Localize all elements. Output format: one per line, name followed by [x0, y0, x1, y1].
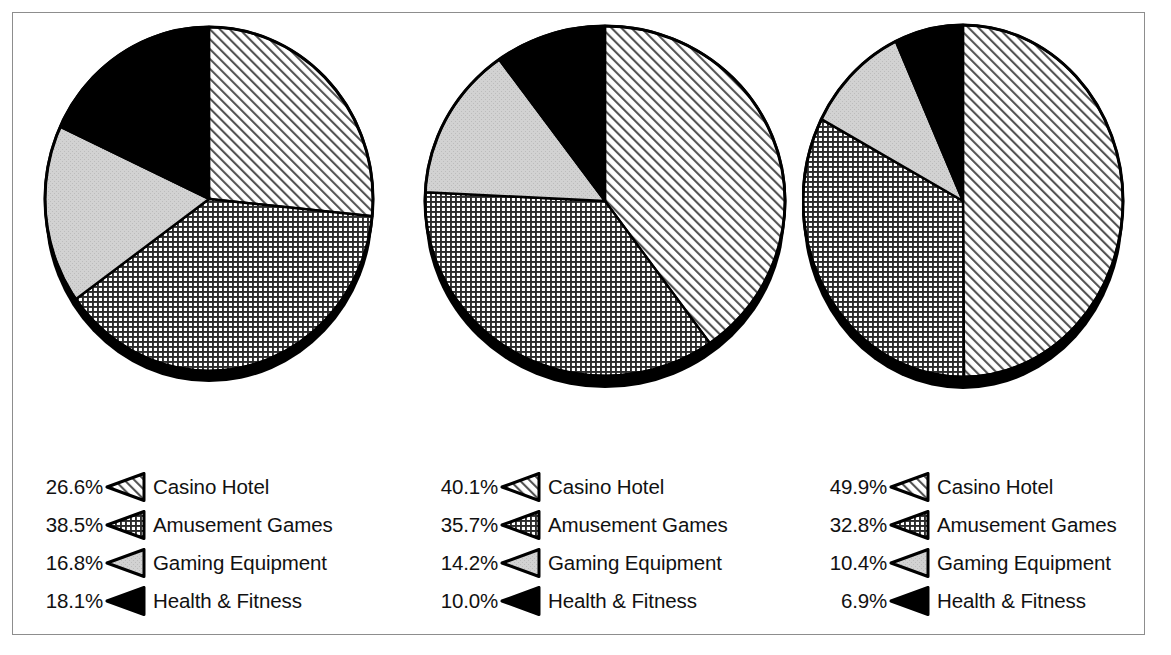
legend-marker-solid-black-icon	[105, 586, 147, 616]
legend-percent: 10.4%	[809, 551, 887, 575]
pie-panel-1: 26.6% Casino Hotel 38.5%	[13, 13, 408, 634]
legend-label: Amusement Games	[548, 513, 728, 537]
legend-marker-cross-hatch-icon	[500, 510, 542, 540]
legend-marker-solid-black-icon	[500, 586, 542, 616]
legend-1: 26.6% Casino Hotel 38.5%	[25, 468, 333, 620]
pie-panel-3: 49.9% Casino Hotel 32.8%	[788, 13, 1146, 634]
legend-item[interactable]: 16.8% Gaming Equipment	[25, 544, 333, 582]
legend-item[interactable]: 35.7% Amusement Games	[420, 506, 728, 544]
legend-item[interactable]: 6.9% Health & Fitness	[809, 582, 1117, 620]
pie-svg-3	[802, 21, 1142, 421]
legend-percent: 26.6%	[25, 475, 103, 499]
legend-label: Gaming Equipment	[548, 551, 722, 575]
legend-percent: 10.0%	[420, 589, 498, 613]
legend-swatch	[105, 548, 147, 578]
legend-marker-cross-hatch-icon	[889, 510, 931, 540]
legend-percent: 49.9%	[809, 475, 887, 499]
legend-percent: 18.1%	[25, 589, 103, 613]
legend-percent: 32.8%	[809, 513, 887, 537]
legend-swatch	[500, 548, 542, 578]
legend-item[interactable]: 14.2% Gaming Equipment	[420, 544, 728, 582]
legend-item[interactable]: 10.4% Gaming Equipment	[809, 544, 1117, 582]
legend-item[interactable]: 26.6% Casino Hotel	[25, 468, 333, 506]
legend-2: 40.1% Casino Hotel 35.7%	[420, 468, 728, 620]
legend-marker-diagonal-hatch-icon	[889, 472, 931, 502]
legend-label: Gaming Equipment	[937, 551, 1111, 575]
legend-marker-diagonal-hatch-icon	[500, 472, 542, 502]
legend-item[interactable]: 18.1% Health & Fitness	[25, 582, 333, 620]
legend-item[interactable]: 49.9% Casino Hotel	[809, 468, 1117, 506]
legend-marker-diagonal-hatch-icon	[105, 472, 147, 502]
legend-item[interactable]: 38.5% Amusement Games	[25, 506, 333, 544]
legend-marker-light-gray-icon	[500, 548, 542, 578]
legend-swatch	[889, 586, 931, 616]
legend-item[interactable]: 40.1% Casino Hotel	[420, 468, 728, 506]
legend-label: Casino Hotel	[153, 475, 269, 499]
pie-chart-3	[802, 21, 1142, 421]
legend-swatch	[105, 510, 147, 540]
legend-percent: 35.7%	[420, 513, 498, 537]
pie-svg-1	[22, 21, 400, 421]
legend-label: Health & Fitness	[153, 589, 302, 613]
pie-slices	[803, 25, 1123, 377]
pie-slices	[45, 27, 373, 371]
legend-swatch	[500, 510, 542, 540]
legend-marker-solid-black-icon	[889, 586, 931, 616]
legend-marker-cross-hatch-icon	[105, 510, 147, 540]
legend-3: 49.9% Casino Hotel 32.8%	[809, 468, 1117, 620]
pie-svg-2	[415, 21, 793, 421]
legend-item[interactable]: 32.8% Amusement Games	[809, 506, 1117, 544]
legend-label: Amusement Games	[937, 513, 1117, 537]
legend-swatch	[105, 586, 147, 616]
legend-label: Health & Fitness	[548, 589, 697, 613]
legend-label: Amusement Games	[153, 513, 333, 537]
legend-percent: 16.8%	[25, 551, 103, 575]
legend-marker-light-gray-icon	[105, 548, 147, 578]
screenshot-canvas: 26.6% Casino Hotel 38.5%	[0, 0, 1171, 655]
legend-percent: 40.1%	[420, 475, 498, 499]
pie-chart-2	[415, 21, 793, 421]
legend-label: Gaming Equipment	[153, 551, 327, 575]
pie-slice-casino-hotel[interactable]	[209, 27, 373, 216]
legend-swatch	[889, 472, 931, 502]
legend-percent: 6.9%	[809, 589, 887, 613]
pie-chart-1	[22, 21, 400, 421]
legend-swatch	[500, 586, 542, 616]
legend-item[interactable]: 10.0% Health & Fitness	[420, 582, 728, 620]
legend-marker-light-gray-icon	[889, 548, 931, 578]
legend-swatch	[105, 472, 147, 502]
pie-slices	[425, 26, 785, 376]
legend-label: Health & Fitness	[937, 589, 1086, 613]
figure-frame: 26.6% Casino Hotel 38.5%	[12, 12, 1145, 635]
pie-slice-casino-hotel[interactable]	[963, 25, 1123, 377]
legend-percent: 38.5%	[25, 513, 103, 537]
legend-percent: 14.2%	[420, 551, 498, 575]
legend-swatch	[889, 548, 931, 578]
legend-label: Casino Hotel	[548, 475, 664, 499]
pie-panel-2: 40.1% Casino Hotel 35.7%	[408, 13, 788, 634]
legend-swatch	[500, 472, 542, 502]
legend-label: Casino Hotel	[937, 475, 1053, 499]
legend-swatch	[889, 510, 931, 540]
